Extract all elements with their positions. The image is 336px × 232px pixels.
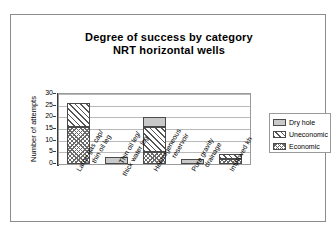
chart-figure: Degree of success by category NRT horizo…: [0, 0, 336, 232]
legend-label: Uneconomic: [289, 131, 328, 139]
y-tick-label: 15: [45, 124, 53, 132]
bar-segment[interactable]: [67, 103, 90, 127]
legend-item[interactable]: Dry hole: [273, 117, 327, 128]
y-tick-mark: [53, 116, 56, 117]
x-axis-labels: Large gas cap/thin oil legThin oil leg/t…: [58, 167, 251, 232]
y-tick-mark: [53, 163, 56, 164]
y-tick-label: 25: [45, 101, 53, 109]
chart-title-line-2: NRT horizontal wells: [11, 44, 327, 57]
y-tick-mark: [53, 93, 56, 94]
page-title: Degree of success by category NRT horizo…: [11, 31, 327, 57]
y-tick-mark: [53, 128, 56, 129]
legend-swatch-icon: [273, 131, 286, 138]
legend-item[interactable]: Uneconomic: [273, 129, 327, 140]
y-tick-mark: [53, 140, 56, 141]
figure-frame: Degree of success by category NRT horizo…: [10, 14, 326, 222]
legend-label: Economic: [289, 143, 320, 151]
y-tick-mark: [53, 151, 56, 152]
legend-swatch-icon: [273, 119, 286, 126]
y-tick-label: 30: [45, 89, 53, 97]
chart-legend: Dry holeUneconomicEconomic: [269, 113, 331, 153]
chart-title-line-1: Degree of success by category: [11, 31, 327, 44]
y-tick-mark: [53, 105, 56, 106]
y-tick-label: 20: [45, 112, 53, 120]
legend-label: Dry hole: [289, 119, 315, 127]
legend-swatch-icon: [273, 143, 286, 150]
legend-item[interactable]: Economic: [273, 141, 327, 152]
y-axis-ticks: 051015202530: [37, 89, 56, 169]
bar-segment[interactable]: [143, 117, 166, 126]
y-tick-label: 10: [45, 136, 53, 144]
